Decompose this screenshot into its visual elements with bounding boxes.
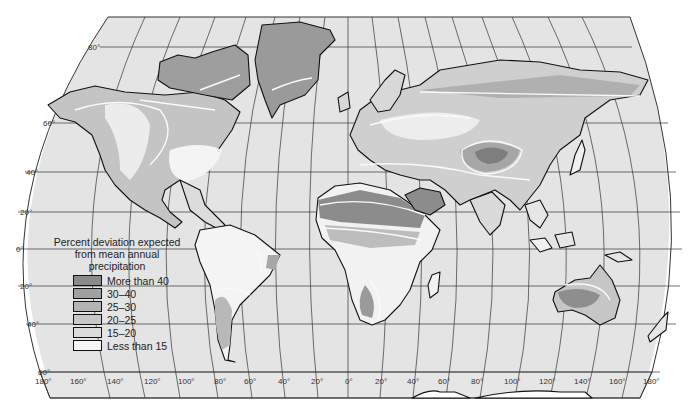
legend-label: 20–25 (107, 314, 136, 326)
legend-title-line: from mean annual (42, 248, 192, 260)
legend-item: Less than 15 (73, 339, 192, 352)
svg-text:60°: 60° (244, 377, 256, 386)
svg-text:160°: 160° (70, 377, 87, 386)
legend-item: 20–25 (73, 313, 192, 326)
legend-item: 15–20 (73, 326, 192, 339)
legend-swatch (73, 301, 102, 312)
legend-label: Less than 15 (107, 340, 167, 352)
svg-text:40°: 40° (407, 377, 419, 386)
legend-title: Percent deviation expected from mean ann… (42, 236, 192, 272)
svg-text:180°: 180° (643, 377, 660, 386)
legend-swatch (73, 288, 102, 299)
legend-label: More than 40 (107, 275, 169, 287)
legend-item: More than 40 (73, 274, 192, 287)
svg-text:20°: 20° (375, 377, 387, 386)
legend-item: 25–30 (73, 300, 192, 313)
legend-label: 30–40 (107, 288, 136, 300)
legend-title-line: Percent deviation expected (42, 236, 192, 248)
svg-text:80°: 80° (471, 377, 483, 386)
svg-text:100°: 100° (178, 377, 195, 386)
svg-text:120°: 120° (539, 377, 556, 386)
svg-text:140°: 140° (574, 377, 591, 386)
legend-item: 30–40 (73, 287, 192, 300)
svg-text:100°: 100° (504, 377, 521, 386)
svg-text:60°: 60° (438, 377, 450, 386)
svg-text:0°: 0° (16, 245, 24, 254)
map-legend: Percent deviation expected from mean ann… (42, 236, 192, 352)
svg-text:80°: 80° (88, 43, 100, 52)
legend-swatch (73, 314, 102, 325)
legend-label: 25–30 (107, 301, 136, 313)
svg-text:120°: 120° (144, 377, 161, 386)
svg-text:40°: 40° (26, 168, 38, 177)
svg-text:40°: 40° (27, 320, 39, 329)
legend-swatch (73, 275, 102, 286)
svg-text:180°: 180° (35, 377, 52, 386)
svg-text:60°: 60° (43, 119, 55, 128)
svg-text:60°: 60° (38, 368, 50, 377)
svg-text:160°: 160° (609, 377, 626, 386)
svg-text:40°: 40° (278, 377, 290, 386)
svg-text:20°: 20° (311, 377, 323, 386)
legend-swatch (73, 340, 102, 351)
legend-swatch (73, 327, 102, 338)
svg-text:0°: 0° (345, 377, 353, 386)
svg-text:140°: 140° (107, 377, 124, 386)
legend-label: 15–20 (107, 327, 136, 339)
svg-text:20°: 20° (20, 282, 32, 291)
legend-items: More than 40 30–40 25–30 20–25 15–20 Les… (73, 274, 192, 352)
svg-text:80°: 80° (214, 377, 226, 386)
legend-title-line: precipitation (42, 260, 192, 272)
svg-text:20°: 20° (20, 208, 32, 217)
